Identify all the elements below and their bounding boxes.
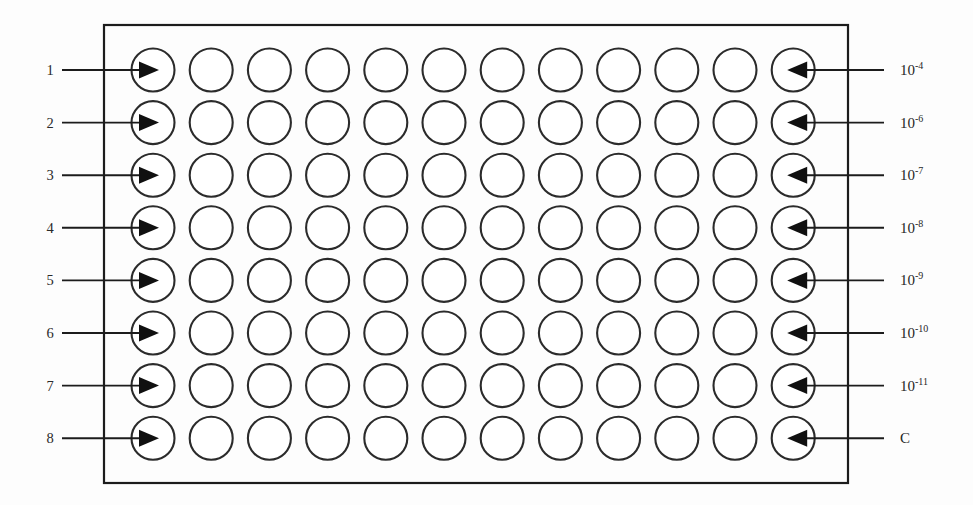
well-r1-c4[interactable] [306, 49, 349, 92]
well-r4-c11[interactable] [714, 206, 757, 249]
concentration-base: 10 [900, 220, 915, 236]
well-r6-c11[interactable] [714, 312, 757, 355]
well-r7-c6[interactable] [423, 364, 466, 407]
concentration-exponent: -11 [915, 376, 928, 387]
well-r3-c6[interactable] [423, 154, 466, 197]
microplate-diagram: 12345678 10-410-610-710-810-910-1010-11C [0, 0, 973, 505]
well-r2-c7[interactable] [481, 101, 524, 144]
well-r8-c8[interactable] [539, 417, 582, 460]
well-r6-c5[interactable] [364, 312, 407, 355]
well-r8-c10[interactable] [655, 417, 698, 460]
well-r3-c2[interactable] [190, 154, 233, 197]
well-r3-c11[interactable] [714, 154, 757, 197]
well-r1-c5[interactable] [364, 49, 407, 92]
well-r5-c2[interactable] [190, 259, 233, 302]
well-r5-c4[interactable] [306, 259, 349, 302]
well-r8-c6[interactable] [423, 417, 466, 460]
well-r8-c7[interactable] [481, 417, 524, 460]
well-r2-c8[interactable] [539, 101, 582, 144]
concentration-exponent: -10 [915, 323, 928, 334]
well-r7-c7[interactable] [481, 364, 524, 407]
well-r3-c10[interactable] [655, 154, 698, 197]
concentration-base: C [900, 430, 910, 446]
well-r1-c7[interactable] [481, 49, 524, 92]
well-r5-c8[interactable] [539, 259, 582, 302]
wells-layer [132, 49, 815, 460]
well-r4-c10[interactable] [655, 206, 698, 249]
well-r7-c5[interactable] [364, 364, 407, 407]
well-r2-c10[interactable] [655, 101, 698, 144]
well-r7-c11[interactable] [714, 364, 757, 407]
well-r1-c11[interactable] [714, 49, 757, 92]
well-r5-c7[interactable] [481, 259, 524, 302]
well-r1-c3[interactable] [248, 49, 291, 92]
well-r6-c7[interactable] [481, 312, 524, 355]
well-r7-c8[interactable] [539, 364, 582, 407]
well-r6-c10[interactable] [655, 312, 698, 355]
well-r8-c4[interactable] [306, 417, 349, 460]
well-r1-c9[interactable] [597, 49, 640, 92]
well-r1-c8[interactable] [539, 49, 582, 92]
well-r4-c9[interactable] [597, 206, 640, 249]
well-r7-c3[interactable] [248, 364, 291, 407]
concentration-exponent: -8 [915, 218, 923, 229]
concentration-base: 10 [900, 325, 915, 341]
concentration-base: 10 [900, 167, 915, 183]
well-r5-c6[interactable] [423, 259, 466, 302]
well-r1-c2[interactable] [190, 49, 233, 92]
row-number-label-8: 8 [46, 430, 53, 446]
well-r8-c11[interactable] [714, 417, 757, 460]
row-number-label-5: 5 [46, 272, 53, 288]
well-r4-c4[interactable] [306, 206, 349, 249]
well-r6-c4[interactable] [306, 312, 349, 355]
well-r5-c3[interactable] [248, 259, 291, 302]
well-r5-c11[interactable] [714, 259, 757, 302]
well-r8-c9[interactable] [597, 417, 640, 460]
well-r3-c5[interactable] [364, 154, 407, 197]
concentration-label-4: 10-8 [900, 218, 923, 236]
well-r1-c10[interactable] [655, 49, 698, 92]
well-r3-c4[interactable] [306, 154, 349, 197]
well-r2-c2[interactable] [190, 101, 233, 144]
well-r3-c9[interactable] [597, 154, 640, 197]
concentration-label-6: 10-10 [900, 323, 928, 341]
well-r3-c7[interactable] [481, 154, 524, 197]
well-r3-c8[interactable] [539, 154, 582, 197]
well-r4-c2[interactable] [190, 206, 233, 249]
well-r4-c8[interactable] [539, 206, 582, 249]
well-r5-c10[interactable] [655, 259, 698, 302]
row-number-label-4: 4 [46, 220, 54, 236]
well-r7-c2[interactable] [190, 364, 233, 407]
well-r6-c8[interactable] [539, 312, 582, 355]
well-r5-c9[interactable] [597, 259, 640, 302]
well-r2-c9[interactable] [597, 101, 640, 144]
well-r4-c6[interactable] [423, 206, 466, 249]
well-r2-c4[interactable] [306, 101, 349, 144]
well-r8-c2[interactable] [190, 417, 233, 460]
well-r4-c5[interactable] [364, 206, 407, 249]
well-r7-c9[interactable] [597, 364, 640, 407]
well-r1-c6[interactable] [423, 49, 466, 92]
concentration-label-group: 10-410-610-710-810-910-1010-11C [900, 60, 928, 446]
row-number-label-7: 7 [46, 378, 53, 394]
well-r8-c3[interactable] [248, 417, 291, 460]
well-r5-c5[interactable] [364, 259, 407, 302]
well-r2-c6[interactable] [423, 101, 466, 144]
left-leads-layer [62, 62, 159, 447]
concentration-label-5: 10-9 [900, 270, 923, 288]
well-r4-c3[interactable] [248, 206, 291, 249]
well-r6-c3[interactable] [248, 312, 291, 355]
well-r3-c3[interactable] [248, 154, 291, 197]
well-r2-c11[interactable] [714, 101, 757, 144]
well-r4-c7[interactable] [481, 206, 524, 249]
row-number-label-3: 3 [46, 167, 53, 183]
well-r2-c5[interactable] [364, 101, 407, 144]
concentration-base: 10 [900, 378, 915, 394]
well-r6-c6[interactable] [423, 312, 466, 355]
well-r6-c2[interactable] [190, 312, 233, 355]
well-r7-c4[interactable] [306, 364, 349, 407]
well-r6-c9[interactable] [597, 312, 640, 355]
well-r8-c5[interactable] [364, 417, 407, 460]
well-r2-c3[interactable] [248, 101, 291, 144]
well-r7-c10[interactable] [655, 364, 698, 407]
